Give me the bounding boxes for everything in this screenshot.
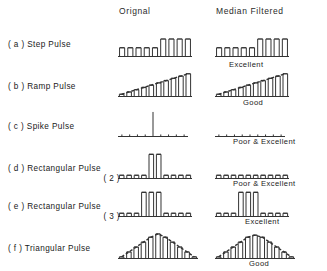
quality-annotation: Poor & Excellent bbox=[233, 137, 296, 146]
row-sublabel: ( 2 ) bbox=[8, 174, 120, 183]
row-label: ( d ) Rectangular Pulse ( 2 ) bbox=[8, 164, 120, 183]
plot-median-filtered bbox=[215, 186, 289, 218]
row-label: ( b ) Ramp Pulse bbox=[8, 82, 120, 92]
row-sublabel: ( 3 ) bbox=[8, 212, 120, 221]
row-label-text: ( e ) Rectangular Pulse bbox=[8, 202, 101, 211]
row-label: ( a ) Step Pulse bbox=[8, 40, 120, 50]
row-label-text: ( a ) Step Pulse bbox=[8, 40, 71, 49]
median-filter-figure: Orignal Median Filtered ( a ) Step Pulse… bbox=[0, 0, 327, 271]
quality-annotation: Good bbox=[249, 259, 269, 268]
column-header-original: Orignal bbox=[119, 6, 151, 16]
plot-median-filtered bbox=[215, 228, 295, 260]
plot-median-filtered bbox=[215, 148, 289, 180]
row-label: ( e ) Rectangular Pulse ( 3 ) bbox=[8, 202, 120, 221]
quality-annotation: Excellent bbox=[245, 217, 279, 226]
row-label-text: ( b ) Ramp Pulse bbox=[8, 82, 76, 91]
plot-original bbox=[118, 148, 192, 180]
row-label: ( c ) Spike Pulse bbox=[8, 122, 120, 132]
row-label-text: ( d ) Rectangular Pulse bbox=[8, 164, 101, 173]
plot-original bbox=[118, 32, 192, 58]
column-header-median-filtered: Median Filtered bbox=[216, 6, 284, 16]
plot-median-filtered bbox=[215, 106, 285, 138]
plot-median-filtered bbox=[215, 68, 289, 98]
row-label-text: ( f ) Triangular Pulse bbox=[8, 244, 91, 253]
plot-median-filtered bbox=[215, 32, 289, 58]
plot-original bbox=[118, 186, 192, 218]
plot-original bbox=[118, 106, 188, 138]
plot-original bbox=[118, 68, 192, 98]
plot-original bbox=[118, 228, 198, 260]
row-label-text: ( c ) Spike Pulse bbox=[8, 122, 74, 131]
row-label: ( f ) Triangular Pulse bbox=[8, 244, 120, 254]
